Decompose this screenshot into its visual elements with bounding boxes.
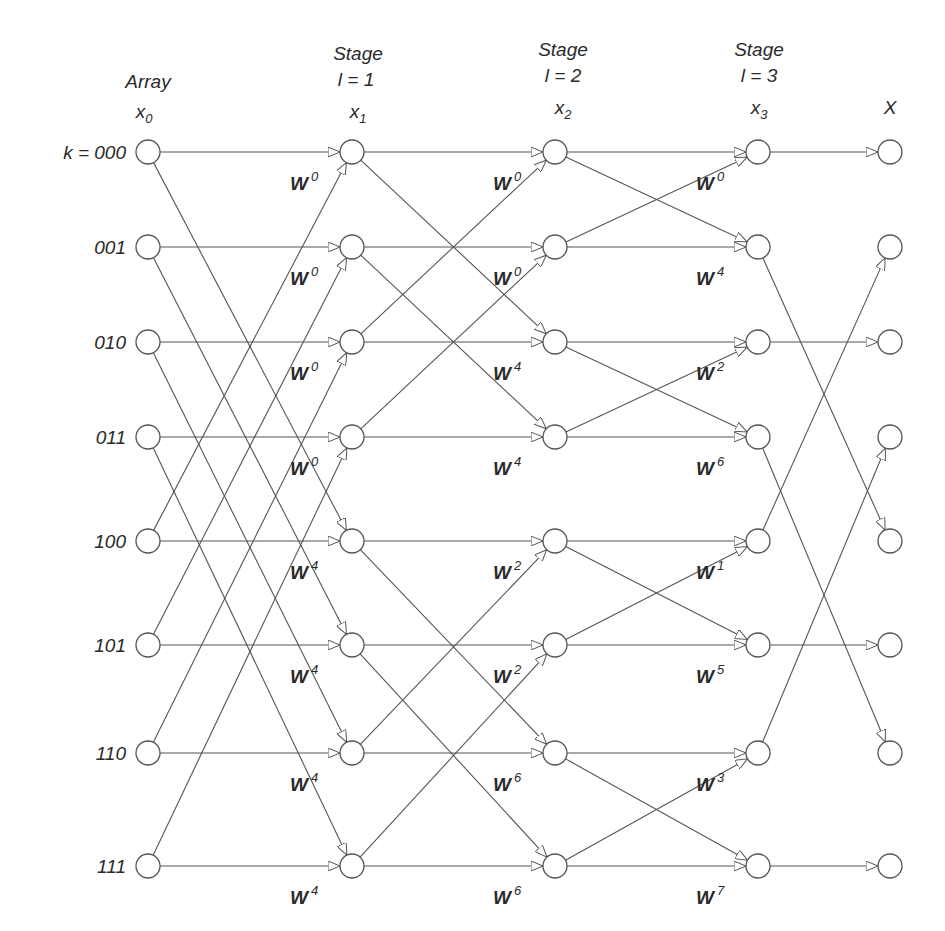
node [340,140,364,164]
node [340,235,364,259]
node [136,330,160,354]
node [746,330,770,354]
svg-text:Stage: Stage [333,43,383,64]
twiddle-factor-label: W4 [290,662,318,687]
row-label: 111 [97,856,126,877]
twiddle-factor-label: W6 [696,454,725,479]
twiddle-factor-label: W0 [290,359,319,384]
fft-butterfly-diagram: Array x0 Stage l = 1 x1 Stage l = 2 x2 S… [0,0,945,931]
row-label: k = 000 [63,142,126,163]
twiddle-factor-label: W1 [696,558,724,583]
twiddle-factor-label: W4 [290,883,318,908]
node [136,140,160,164]
node [543,854,567,878]
node [136,854,160,878]
node [340,529,364,553]
svg-text:Array: Array [124,71,172,92]
node [340,425,364,449]
svg-text:x3: x3 [750,97,769,122]
node [878,854,902,878]
twiddle-factor-label: W0 [493,169,522,194]
node [543,633,567,657]
twiddle-factor-label: W2 [696,359,725,384]
twiddle-factor-label: W0 [290,169,319,194]
twiddle-factor-label: W2 [493,558,522,583]
row-label: 100 [94,531,126,552]
svg-text:X: X [883,97,898,118]
node [878,330,902,354]
node [878,140,902,164]
row-label: 101 [94,635,126,656]
twiddle-factor-label: W0 [696,169,725,194]
node [136,741,160,765]
header-output: X [883,97,898,118]
svg-text:x1: x1 [349,101,367,126]
twiddle-factor-label: W4 [493,454,521,479]
twiddle-factor-label: W2 [493,662,522,687]
header-stage-1: Stage l = 1 x1 [333,43,383,126]
node [878,529,902,553]
svg-text:x2: x2 [554,97,573,122]
node [543,330,567,354]
svg-text:Stage: Stage [538,39,588,60]
row-label: 110 [96,743,127,764]
node [340,741,364,765]
twiddle-factor-label: W4 [290,558,318,583]
twiddle-factor-label: W4 [493,359,521,384]
node [340,854,364,878]
node [543,529,567,553]
twiddle-factor-label: W4 [290,770,318,795]
node [746,235,770,259]
node [878,633,902,657]
node [136,235,160,259]
node [340,330,364,354]
twiddle-factor-label: W0 [290,454,319,479]
svg-text:Stage: Stage [734,39,784,60]
row-labels: k = 000001010011100101110111 [63,142,126,877]
node [543,425,567,449]
node [746,633,770,657]
twiddle-factor-label: W3 [696,770,725,795]
svg-text:x0: x0 [135,101,154,126]
twiddle-factor-label: W4 [696,264,724,289]
svg-text:l = 2: l = 2 [545,65,582,86]
row-label: 001 [94,237,126,258]
node [878,235,902,259]
twiddle-factor-label: W7 [696,883,725,908]
node [136,529,160,553]
node [543,235,567,259]
node [543,741,567,765]
svg-text:l = 1: l = 1 [338,69,374,90]
header-array: Array x0 [124,71,172,126]
node [878,425,902,449]
node [340,633,364,657]
row-label: 010 [94,332,126,353]
header-stage-2: Stage l = 2 x2 [538,39,588,122]
node [746,854,770,878]
node [746,529,770,553]
twiddle-factor-label: W6 [493,770,522,795]
twiddle-factor-label: W5 [696,662,725,687]
node [878,741,902,765]
header-stage-3: Stage l = 3 x3 [734,39,784,122]
butterfly-edges [153,152,885,866]
node [136,633,160,657]
node [746,741,770,765]
svg-text:l = 3: l = 3 [741,65,778,86]
twiddle-factor-label: W0 [290,264,319,289]
row-label: 011 [96,427,126,448]
twiddle-factor-label: W0 [493,264,522,289]
node [543,140,567,164]
node [746,140,770,164]
twiddle-factor-label: W6 [493,883,522,908]
butterfly-nodes [136,140,902,878]
node [136,425,160,449]
node [746,425,770,449]
